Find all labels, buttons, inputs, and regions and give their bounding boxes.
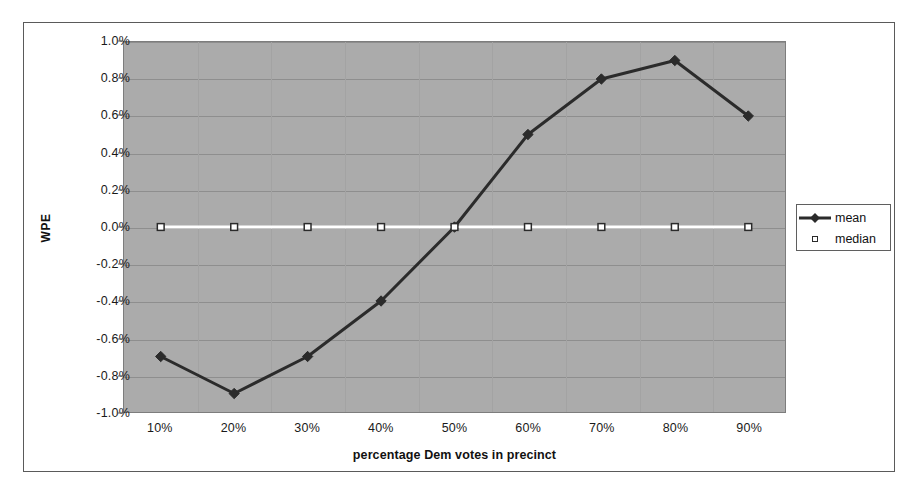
data-point-marker-mean [229,388,239,398]
x-tick-label: 10% [130,421,190,435]
series-group [124,42,785,412]
y-tick-mark [118,227,123,228]
data-point-marker-median [525,224,532,231]
y-tick-mark [118,78,123,79]
x-tick-label: 40% [351,421,411,435]
x-tick-label: 90% [719,421,779,435]
x-axis-title: percentage Dem votes in precinct [123,448,786,462]
data-point-marker-mean [156,351,166,361]
y-tick-mark [118,264,123,265]
x-tick-label: 60% [498,421,558,435]
x-tick-label: 70% [572,421,632,435]
y-tick-mark [118,152,123,153]
x-tick-label: 80% [646,421,706,435]
open-square-icon [797,232,833,246]
x-tick-label: 50% [425,421,485,435]
y-tick-mark [118,375,123,376]
legend: meanmedian [796,204,891,251]
data-point-marker-median [378,224,385,231]
y-tick-mark [118,189,123,190]
legend-label: median [835,232,876,246]
legend-label: mean [835,211,866,225]
x-tick-label: 30% [277,421,337,435]
data-point-marker-median [231,224,238,231]
legend-entry: median [797,228,892,250]
data-point-marker-median [451,224,458,231]
y-axis-title: WPE [39,214,53,243]
y-tick-mark [118,115,123,116]
y-tick-mark [118,413,123,414]
y-tick-mark [118,338,123,339]
diamond-line-icon [797,211,833,225]
data-point-marker-median [598,224,605,231]
data-point-marker-median [157,224,164,231]
y-tick-mark [118,301,123,302]
legend-entry: mean [797,207,892,229]
data-point-marker-median [745,224,752,231]
data-point-marker-median [304,224,311,231]
chart-canvas: 1.0%0.8%0.6%0.4%0.2%0.0%-0.2%-0.4%-0.6%-… [24,23,896,473]
series-median [157,224,751,231]
data-point-marker-median [671,224,678,231]
figure-frame: 1.0%0.8%0.6%0.4%0.2%0.0%-0.2%-0.4%-0.6%-… [23,22,895,472]
legend-diamond [810,213,820,223]
plot-area [123,41,786,413]
y-tick-mark [118,41,123,42]
legend-square [812,236,818,242]
x-tick-label: 20% [204,421,264,435]
